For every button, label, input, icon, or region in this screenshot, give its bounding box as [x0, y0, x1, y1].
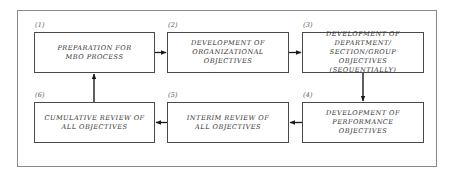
- step-4-box: DEVELOPMENT OF PERFORMANCE OBJECTIVES: [302, 102, 424, 143]
- step-1-number: (1): [35, 21, 45, 29]
- step-1-text: PREPARATION FOR MBO PROCESS: [55, 44, 133, 62]
- step-3-box: DEVELOPMENT OF DEPARTMENT/ SECTION/GROUP…: [302, 32, 424, 73]
- step-6-number: (6): [35, 91, 45, 99]
- step-3-text: DEVELOPMENT OF DEPARTMENT/ SECTION/GROUP…: [303, 30, 423, 75]
- step-5-text: INTERIM REVIEW OF ALL OBJECTIVES: [185, 114, 271, 132]
- step-2-number: (2): [168, 21, 178, 29]
- step-6-text: CUMULATIVE REVIEW OF ALL OBJECTIVES: [42, 114, 146, 132]
- step-4-number: (4): [303, 91, 313, 99]
- step-2-box: DEVELOPMENT OF ORGANIZATIONAL OBJECTIVES: [167, 32, 289, 73]
- step-2-text: DEVELOPMENT OF ORGANIZATIONAL OBJECTIVES: [168, 39, 288, 66]
- step-5-number: (5): [168, 91, 178, 99]
- step-1-box: PREPARATION FOR MBO PROCESS: [34, 32, 155, 73]
- step-4-text: DEVELOPMENT OF PERFORMANCE OBJECTIVES: [303, 109, 423, 136]
- step-5-box: INTERIM REVIEW OF ALL OBJECTIVES: [167, 102, 289, 143]
- step-3-number: (3): [303, 21, 313, 29]
- step-6-box: CUMULATIVE REVIEW OF ALL OBJECTIVES: [34, 102, 155, 143]
